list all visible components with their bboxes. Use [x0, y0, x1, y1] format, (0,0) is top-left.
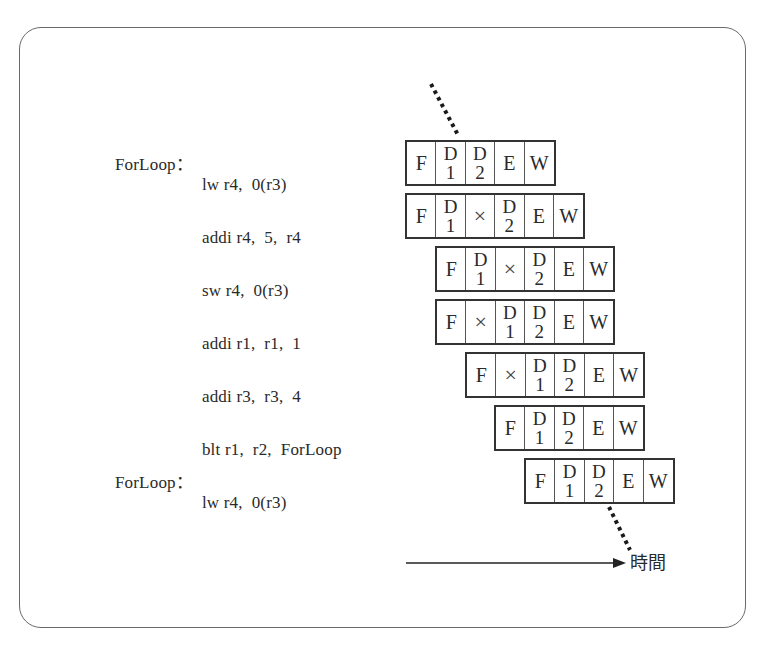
iteration-end-dotted-line: [609, 507, 630, 550]
diagram-overlay: [0, 0, 766, 647]
time-axis-label: 時間: [630, 551, 666, 575]
arrowhead-icon: [613, 558, 626, 568]
iteration-start-dotted-line: [431, 84, 458, 135]
